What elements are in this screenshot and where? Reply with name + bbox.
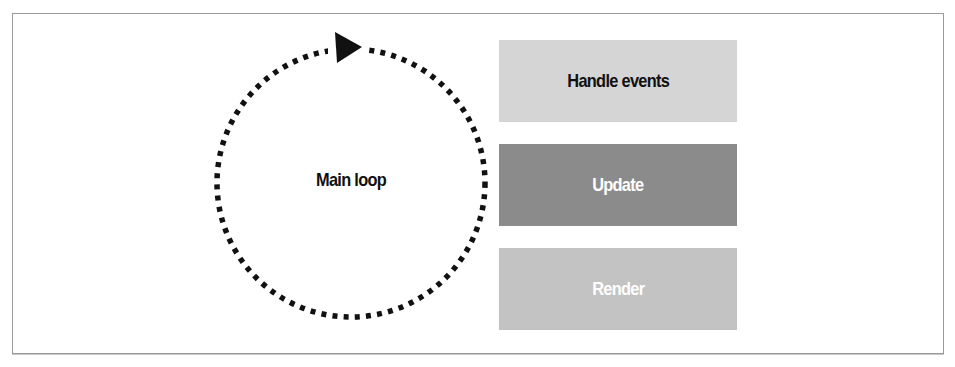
step-label-render: Render xyxy=(592,278,644,300)
step-label-handle-events: Handle events xyxy=(567,70,669,92)
main-loop-label: Main loop xyxy=(299,169,402,191)
main-loop-diagram xyxy=(0,0,955,367)
step-update: Update xyxy=(499,144,737,226)
step-handle-events: Handle events xyxy=(499,40,737,122)
step-label-update: Update xyxy=(592,174,643,196)
step-render: Render xyxy=(499,248,737,330)
